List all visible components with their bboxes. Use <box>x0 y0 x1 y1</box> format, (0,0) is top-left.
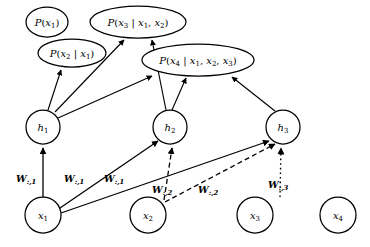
edge-h2-to-p4 <box>172 78 186 110</box>
weight-label-w1b: W:,1 <box>64 173 84 186</box>
input-node-group <box>25 197 356 233</box>
edge-x1-to-h3 <box>61 141 269 213</box>
input-label-group: x1 x2 x3 x4 <box>38 210 344 223</box>
edge-h3-to-p4 <box>232 77 275 111</box>
edge-group-x2 <box>164 144 275 202</box>
hidden-node-group <box>26 110 300 144</box>
weight-label-w1a: W:,1 <box>16 173 36 186</box>
weight-label-w2a: W:,2 <box>152 184 173 197</box>
edge-x2-to-h3 <box>165 144 275 202</box>
weight-label-group: W:,1 W:,1 W:,1 W:,2 W:,2 W:,3 <box>16 173 289 197</box>
edge-h1-to-p4 <box>58 76 152 118</box>
weight-label-w2b: W:,2 <box>198 184 219 197</box>
weight-label-w3a: W:,3 <box>268 179 289 192</box>
edge-h1-to-p2 <box>48 70 61 110</box>
nade-diagram: P(x1) P(x2 | x1) P(x3 | x1, x2) P(x4 | x… <box>0 0 370 247</box>
weight-label-w1c: W:,1 <box>104 173 124 186</box>
